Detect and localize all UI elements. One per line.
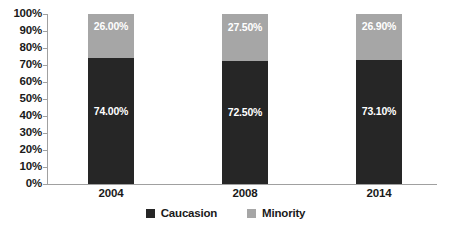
bar-value-label-minority: 26.90% (356, 21, 402, 32)
legend-swatch-icon (247, 209, 256, 218)
y-axis-tick-mark (43, 31, 47, 32)
y-axis-tick-mark (43, 184, 47, 185)
bar-segment-caucasion (356, 60, 402, 184)
x-axis-tick-label: 2008 (205, 188, 285, 200)
y-axis-tick-mark (43, 150, 47, 151)
bar-value-label-caucasion: 74.00% (88, 105, 134, 116)
y-axis-tick-mark (43, 133, 47, 134)
plot-area: 74.00%26.00%72.50%27.50%73.10%26.90% (0, 0, 451, 235)
bar-segment-caucasion (222, 61, 268, 184)
bar-group: 74.00%26.00% (88, 14, 134, 184)
bar-segment-caucasion (88, 58, 134, 184)
bar-group: 73.10%26.90% (356, 14, 402, 184)
y-axis-tick-mark (43, 116, 47, 117)
x-axis-line (47, 184, 437, 185)
bar-value-label-caucasion: 72.50% (222, 107, 268, 118)
chart-legend: CaucasionMinority (0, 208, 451, 220)
x-axis-tick-label: 2004 (71, 188, 151, 200)
y-axis-tick-mark (43, 167, 47, 168)
legend-swatch-icon (146, 209, 155, 218)
bar-group: 72.50%27.50% (222, 14, 268, 184)
y-axis-tick-mark (43, 99, 47, 100)
bar-value-label-minority: 27.50% (222, 22, 268, 33)
y-axis-tick-mark (43, 14, 47, 15)
y-axis-tick-mark (43, 48, 47, 49)
bar-value-label-caucasion: 73.10% (356, 106, 402, 117)
stacked-bar-chart: 0%10%20%30%40%50%60%70%80%90%100% 74.00%… (0, 0, 451, 235)
legend-item[interactable]: Minority (247, 208, 305, 220)
y-axis-tick-mark (43, 65, 47, 66)
legend-item-label: Minority (262, 208, 305, 220)
legend-item-label: Caucasion (161, 208, 217, 220)
bar-value-label-minority: 26.00% (88, 20, 134, 31)
y-axis-tick-mark (43, 82, 47, 83)
x-axis-tick-label: 2014 (339, 188, 419, 200)
legend-item[interactable]: Caucasion (146, 208, 217, 220)
